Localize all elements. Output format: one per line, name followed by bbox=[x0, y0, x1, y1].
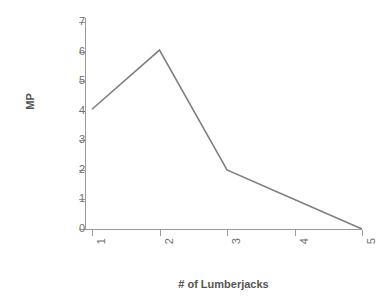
data-line-mp bbox=[92, 50, 362, 229]
series-layer bbox=[0, 0, 383, 301]
line-chart: 01234567 12345 MP # of Lumberjacks bbox=[0, 0, 383, 301]
